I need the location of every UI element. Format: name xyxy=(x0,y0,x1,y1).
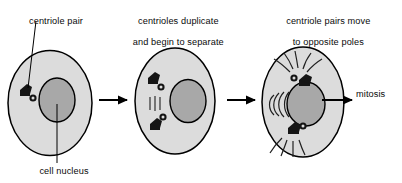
cell-stage-2 xyxy=(135,48,215,154)
cell-nucleus-3 xyxy=(287,82,325,126)
cell-nucleus-2 xyxy=(170,80,206,123)
caption-stage-3-line-2: to opposite poles xyxy=(293,37,364,47)
caption-stage-3: centriole pairs move to opposite poles xyxy=(253,5,393,58)
label-mitosis: mitosis xyxy=(356,89,402,100)
caption-stage-2-line-1: centrioles duplicate xyxy=(138,16,219,26)
label-cell-nucleus: cell nucleus xyxy=(18,166,110,177)
cell-stage-3 xyxy=(262,47,344,157)
cell-stage-1 xyxy=(8,21,92,163)
caption-stage-3-line-1: centriole pairs move xyxy=(286,16,370,26)
caption-stage-1: centriole pair xyxy=(4,16,108,27)
caption-stage-2: centrioles duplicate and begin to separa… xyxy=(108,5,238,58)
caption-stage-2-line-2: and begin to separate xyxy=(133,37,224,47)
diagram-canvas: centriole pair centrioles duplicate and … xyxy=(0,0,402,183)
